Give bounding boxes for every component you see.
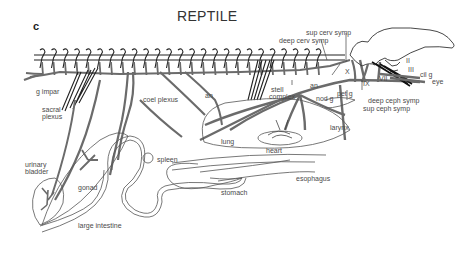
label-an-right: an: [310, 82, 318, 89]
label-sup-ceph-symp: sup ceph symp: [363, 105, 410, 112]
label-bladder: bladder: [25, 168, 48, 175]
label-nod-g: nod g: [316, 95, 334, 102]
label-sacral: sacral: [42, 106, 61, 113]
label-II: II: [406, 57, 410, 64]
label-deep-ceph-symp: deep ceph symp: [368, 97, 419, 104]
label-stomach: stomach: [221, 189, 247, 196]
label-eye: eye: [432, 78, 443, 85]
panel-letter: c: [33, 20, 39, 32]
label-spleen: spleen: [157, 156, 178, 163]
label-IX: IX: [363, 80, 370, 87]
label-VII: VII: [379, 75, 388, 82]
label-urinary: urinary: [25, 161, 46, 168]
label-large-intestine: large intestine: [78, 222, 122, 229]
sympathetic-chain: [34, 55, 345, 60]
large-intestine: [40, 136, 246, 232]
label-deep-cerv-symp: deep cerv symp: [279, 37, 328, 44]
diagram-title: REPTILE: [177, 13, 237, 20]
brain-outline: [350, 28, 454, 66]
reptile-autonomic-diagram: [0, 0, 468, 255]
label-stell: stell: [271, 86, 283, 93]
heart-outline: [258, 131, 302, 145]
label-an-left: an: [205, 92, 213, 99]
stomach-outline: [167, 163, 242, 188]
label-cil-g: cil g: [420, 71, 432, 78]
label-plexus: plexus: [42, 113, 62, 120]
gonad-nerve: [80, 150, 98, 170]
label-III: III: [408, 66, 414, 73]
label-sup-cerv-symp: sup cerv symp: [306, 29, 351, 36]
label-g-impar: g impar: [36, 88, 59, 95]
label-heart: heart: [266, 147, 282, 154]
an-left-nerve: [185, 72, 222, 125]
label-lung: lung: [221, 138, 234, 145]
label-complex: complex: [269, 93, 295, 100]
label-coel-plexus: coel plexus: [143, 96, 178, 103]
label-X: X: [345, 68, 350, 75]
label-gonad: gonad: [78, 184, 97, 191]
label-esophagus: esophagus: [296, 175, 330, 182]
label-pet-g: pet g: [337, 90, 353, 97]
sacral-plexus-lines: [62, 68, 98, 111]
label-larynx: larynx: [330, 124, 349, 131]
